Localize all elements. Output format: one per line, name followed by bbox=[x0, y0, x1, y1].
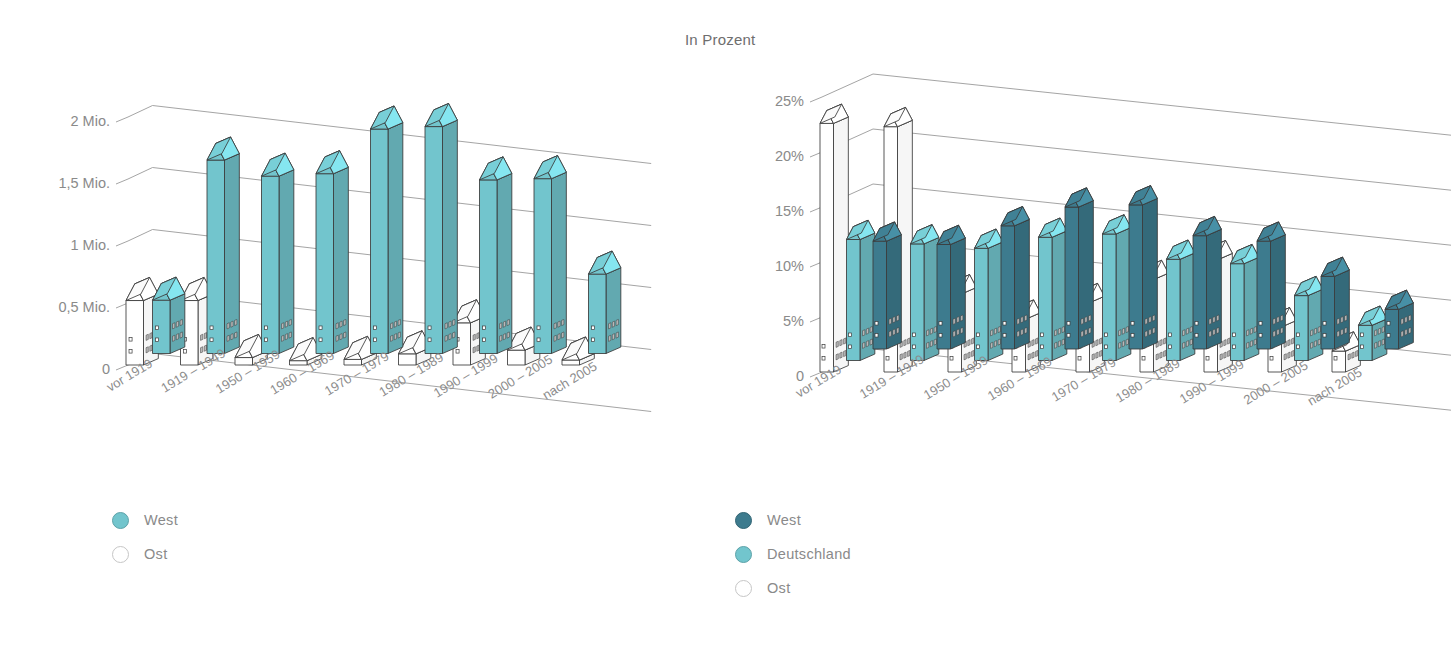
building-window bbox=[554, 335, 556, 341]
building-window bbox=[1062, 326, 1064, 332]
building-window bbox=[1156, 354, 1158, 360]
building-window bbox=[1025, 327, 1027, 333]
building-window bbox=[994, 341, 996, 347]
legend-swatch-ost-icon bbox=[112, 546, 129, 563]
building-window bbox=[863, 342, 865, 348]
building-window bbox=[456, 349, 459, 353]
building-window bbox=[1375, 330, 1377, 336]
y-axis-tick-label: 0 bbox=[102, 361, 110, 377]
building-window bbox=[840, 340, 842, 346]
building-window bbox=[953, 331, 955, 337]
y-axis-tick-label: 25% bbox=[775, 93, 804, 109]
building-window bbox=[500, 323, 502, 329]
legend-right-item[interactable]: Deutschland bbox=[735, 537, 851, 571]
building-window bbox=[445, 335, 447, 341]
building-window bbox=[977, 345, 980, 349]
building-window bbox=[1122, 328, 1124, 334]
building-window bbox=[927, 330, 929, 336]
left-chart-legend: WestOst bbox=[112, 503, 178, 571]
building-window bbox=[1314, 328, 1316, 334]
building-window bbox=[483, 338, 486, 342]
building-window bbox=[1025, 315, 1027, 321]
building-window bbox=[477, 333, 479, 339]
building-window bbox=[319, 326, 322, 330]
right-chart-panel: In Prozent 05%10%15%20%25%vor 19191919 –… bbox=[725, 0, 1451, 659]
y-axis-tick-label: 1 Mio. bbox=[71, 237, 111, 253]
building-window bbox=[129, 349, 132, 353]
building-window bbox=[968, 340, 970, 346]
legend-label: West bbox=[144, 512, 178, 528]
building-window bbox=[870, 339, 872, 345]
bar-right-west-3 bbox=[1065, 188, 1093, 349]
building-window bbox=[1213, 329, 1215, 335]
building-window bbox=[398, 319, 400, 325]
building-window bbox=[173, 323, 175, 329]
building-window bbox=[875, 334, 878, 338]
legend-right-item[interactable]: Ost bbox=[735, 571, 851, 605]
building-window bbox=[1003, 322, 1006, 326]
building-window bbox=[449, 321, 451, 327]
building-window bbox=[1183, 342, 1185, 348]
bar-right-west-8 bbox=[1385, 290, 1413, 349]
right-chart-legend: WestDeutschlandOst bbox=[735, 503, 851, 605]
building-window bbox=[953, 318, 955, 324]
building-window bbox=[1288, 340, 1290, 346]
building-window bbox=[562, 319, 564, 325]
legend-left-item[interactable]: Ost bbox=[112, 537, 178, 571]
building-window bbox=[844, 350, 846, 356]
building-window bbox=[1014, 357, 1017, 361]
building-window bbox=[1250, 328, 1252, 334]
bar-right-deutschland-3 bbox=[1039, 218, 1067, 360]
y-axis-tick-label: 10% bbox=[775, 258, 804, 274]
building-window bbox=[977, 333, 980, 337]
building-window bbox=[889, 331, 891, 337]
building-window bbox=[1131, 322, 1134, 326]
legend-label: Ost bbox=[144, 546, 167, 562]
building-window bbox=[1259, 322, 1262, 326]
y-axis-tick-label: 0,5 Mio. bbox=[58, 299, 110, 315]
building-window bbox=[904, 340, 906, 346]
building-window bbox=[1277, 317, 1279, 323]
building-window bbox=[927, 342, 929, 348]
building-window bbox=[1250, 341, 1252, 347]
building-window bbox=[1281, 315, 1283, 321]
bar-right-west-6 bbox=[1257, 222, 1285, 349]
building-window bbox=[1405, 329, 1407, 335]
legend-right-item[interactable]: West bbox=[735, 503, 851, 537]
building-window bbox=[1100, 338, 1102, 344]
left-chart-panel: 00,5 Mio.1 Mio.1,5 Mio.2 Mio.vor 1919191… bbox=[0, 0, 726, 659]
building-window bbox=[1089, 315, 1091, 321]
building-window bbox=[886, 357, 889, 361]
bar-right-west-7 bbox=[1321, 257, 1349, 349]
building-window bbox=[1206, 357, 1209, 361]
building-window bbox=[1078, 357, 1081, 361]
building-window bbox=[1058, 328, 1060, 334]
building-window bbox=[537, 326, 540, 330]
building-window bbox=[176, 321, 178, 327]
building-window bbox=[972, 338, 974, 344]
building-window bbox=[908, 350, 910, 356]
bar-left-west-5 bbox=[425, 104, 457, 354]
building-window bbox=[1186, 328, 1188, 334]
legend-left-item[interactable]: West bbox=[112, 503, 178, 537]
y-axis-tick-label: 2 Mio. bbox=[71, 113, 111, 129]
building-window bbox=[1153, 327, 1155, 333]
building-window bbox=[282, 323, 284, 329]
building-window bbox=[1153, 315, 1155, 321]
building-window bbox=[1401, 331, 1403, 337]
building-window bbox=[875, 322, 878, 326]
building-window bbox=[1062, 339, 1064, 345]
building-window bbox=[1270, 357, 1273, 361]
building-window bbox=[1224, 352, 1226, 358]
building-window bbox=[1405, 317, 1407, 323]
building-window bbox=[503, 334, 505, 340]
building-window bbox=[1341, 329, 1343, 335]
bar-right-west-5 bbox=[1193, 216, 1221, 349]
building-window bbox=[1041, 345, 1044, 349]
building-window bbox=[285, 334, 287, 340]
building-window bbox=[150, 333, 152, 339]
building-window bbox=[1195, 322, 1198, 326]
building-window bbox=[453, 332, 455, 338]
building-window bbox=[961, 327, 963, 333]
building-window bbox=[558, 321, 560, 327]
